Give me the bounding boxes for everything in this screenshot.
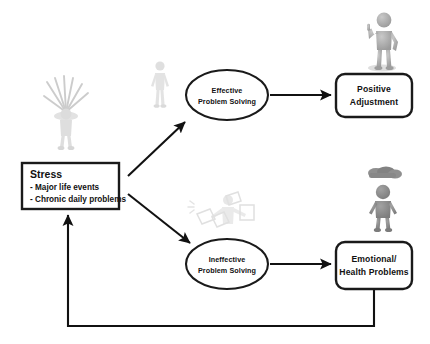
node-effective-problem-solving[interactable]: Effective Problem Solving (186, 70, 268, 120)
stressed-person-figure (44, 76, 88, 150)
emotional-label-line1: Emotional/ (352, 254, 397, 264)
positive-label-line2: Adjustment (350, 97, 398, 107)
connector-stress-to-ineffective (128, 194, 190, 243)
puzzled-person-figure (188, 192, 254, 227)
positive-label-line1: Positive (357, 84, 391, 94)
diagram-svg: Stress - Major life events - Chronic dai… (0, 0, 430, 344)
stress-bullet-0: - Major life events (30, 183, 100, 192)
diagram-canvas: Stress - Major life events - Chronic dai… (0, 0, 430, 344)
thinking-person-figure (151, 61, 169, 107)
ineffective-label-line1: Ineffective (209, 255, 246, 264)
stress-bullet-1: - Chronic daily problems (30, 195, 126, 204)
node-stress[interactable]: Stress - Major life events - Chronic dai… (22, 163, 126, 209)
stress-heading: Stress (30, 168, 62, 180)
emotional-label-line2: Health Problems (339, 267, 408, 277)
gloomy-person-figure (368, 166, 402, 232)
ineffective-label-line2: Problem Solving (198, 266, 256, 275)
node-emotional-health-problems[interactable]: Emotional/ Health Problems (336, 242, 412, 289)
connector-stress-to-effective (128, 122, 185, 176)
effective-label-line1: Effective (212, 86, 243, 95)
rain-cloud-icon (368, 166, 402, 178)
effective-label-line2: Problem Solving (198, 97, 256, 106)
thumbs-up-person-figure (367, 13, 398, 72)
node-ineffective-problem-solving[interactable]: Ineffective Problem Solving (186, 239, 268, 289)
node-positive-adjustment[interactable]: Positive Adjustment (336, 74, 412, 117)
